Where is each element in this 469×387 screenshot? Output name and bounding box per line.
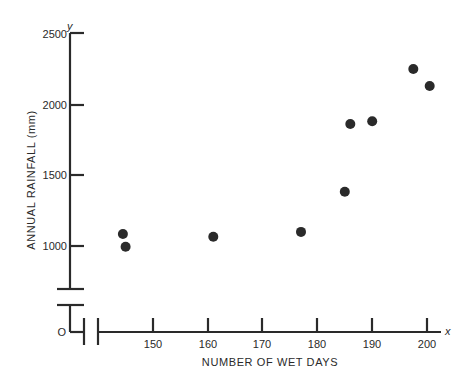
x-tick-label: 200 (418, 338, 436, 350)
y-axis-letter: y (66, 20, 74, 32)
data-point (408, 64, 418, 74)
x-tick-label: 190 (363, 338, 381, 350)
data-points (118, 64, 435, 252)
data-point (118, 229, 128, 239)
data-point (121, 242, 131, 252)
data-point (208, 232, 218, 242)
data-point (296, 227, 306, 237)
y-axis-title: ANNUAL RAINFALL (mm) (25, 110, 37, 250)
y-tick-label: 1000 (43, 240, 67, 252)
x-tick-label: 180 (308, 338, 326, 350)
origin-label: O (57, 326, 66, 338)
x-tick-label: 150 (144, 338, 162, 350)
data-point (425, 81, 435, 91)
data-point (340, 187, 350, 197)
data-point (345, 119, 355, 129)
x-axis-title: NUMBER OF WET DAYS (202, 356, 338, 368)
scatter-chart: 2500 2000 1500 1000 150 160 170 180 190 … (0, 0, 469, 387)
y-tick-label: 1500 (43, 169, 67, 181)
y-tick-label: 2000 (43, 99, 67, 111)
y-axis (57, 33, 84, 332)
x-axis-letter: x (444, 325, 451, 337)
x-tick-label: 170 (253, 338, 271, 350)
data-point (367, 116, 377, 126)
x-tick-label: 160 (199, 338, 217, 350)
y-tick-labels: 2500 2000 1500 1000 (43, 28, 67, 252)
y-tick-label: 2500 (43, 28, 67, 40)
x-tick-labels: 150 160 170 180 190 200 (144, 338, 436, 350)
